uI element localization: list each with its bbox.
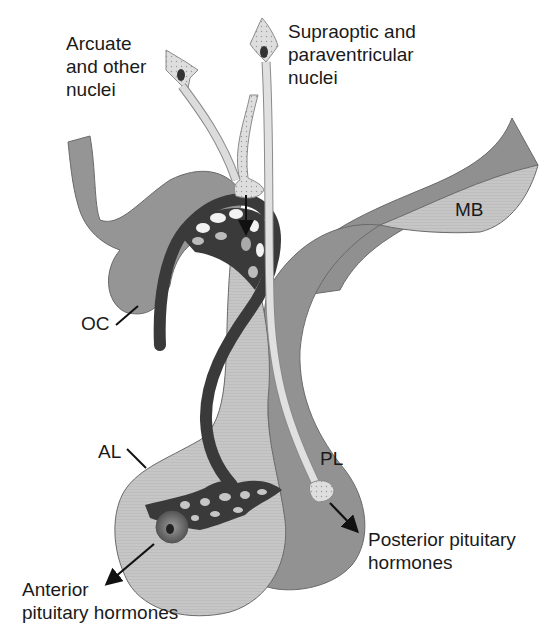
label-anterior-pituitary-hormones: Anterior pituitary hormones bbox=[22, 578, 178, 624]
al-leader-line bbox=[127, 449, 146, 468]
diagram-canvas: Arcuate and other nuclei Supraoptic and … bbox=[0, 0, 559, 636]
label-supraoptic-nuclei: Supraoptic and paraventricular nuclei bbox=[288, 20, 416, 89]
label-posterior-pituitary-hormones: Posterior pituitary hormones bbox=[368, 528, 516, 574]
label-pl: PL bbox=[320, 447, 343, 470]
label-mb: MB bbox=[455, 198, 484, 221]
label-arcuate-nuclei: Arcuate and other nuclei bbox=[66, 32, 146, 101]
label-al: AL bbox=[98, 440, 121, 463]
anterior-pituitary-cell bbox=[156, 511, 188, 543]
label-oc: OC bbox=[81, 312, 110, 335]
